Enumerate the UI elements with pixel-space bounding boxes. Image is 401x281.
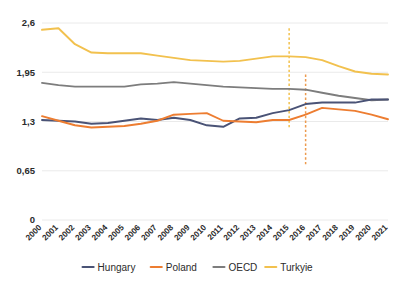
legend-label-poland[interactable]: Poland — [166, 262, 197, 273]
legend-label-turkyie[interactable]: Turkyie — [280, 262, 313, 273]
y-tick-label: 0,65 — [17, 165, 36, 176]
x-axis-tick-labels: 2000200120022003200420052006200720082009… — [24, 223, 390, 243]
x-tick-label: 2013 — [238, 223, 258, 243]
y-axis-tick-labels: 00,651,31,952,6 — [17, 17, 36, 225]
chart-canvas: 00,651,31,952,6 200020012002200320042005… — [0, 0, 401, 281]
y-tick-label: 1,3 — [22, 116, 35, 127]
line-chart: 00,651,31,952,6 200020012002200320042005… — [0, 0, 401, 281]
x-tick-label: 2005 — [107, 223, 127, 243]
x-tick-label: 2003 — [74, 223, 94, 243]
data-series-group — [42, 28, 388, 127]
x-tick-label: 2001 — [41, 223, 61, 243]
x-tick-label: 2014 — [255, 223, 275, 243]
marker-lines-group — [289, 28, 305, 166]
x-tick-label: 2010 — [189, 223, 209, 243]
x-tick-label: 2004 — [90, 223, 110, 243]
x-tick-label: 2020 — [354, 223, 374, 243]
x-tick-label: 2011 — [206, 223, 225, 242]
x-tick-label: 2009 — [172, 223, 192, 243]
x-tick-label: 2007 — [140, 223, 160, 243]
x-tick-label: 2019 — [337, 223, 357, 243]
x-tick-label: 2017 — [304, 223, 324, 243]
x-tick-label: 2012 — [222, 223, 242, 243]
series-line-hungary — [42, 100, 388, 127]
chart-legend: HungaryPolandOECDTurkyie — [83, 262, 314, 273]
y-tick-label: 2,6 — [22, 17, 35, 28]
legend-label-hungary[interactable]: Hungary — [98, 262, 136, 273]
x-tick-label: 2000 — [24, 223, 44, 243]
x-tick-label: 2018 — [321, 223, 341, 243]
x-tick-label: 2015 — [271, 223, 291, 243]
x-tick-label: 2021 — [370, 223, 390, 243]
y-tick-label: 1,95 — [17, 67, 36, 78]
legend-label-oecd[interactable]: OECD — [228, 262, 257, 273]
series-line-oecd — [42, 82, 388, 100]
x-tick-label: 2016 — [288, 223, 308, 243]
x-tick-label: 2002 — [57, 223, 77, 243]
x-tick-label: 2006 — [123, 223, 143, 243]
y-tick-label: 0 — [30, 214, 35, 225]
x-tick-label: 2008 — [156, 223, 176, 243]
series-line-turkyie — [42, 28, 388, 74]
